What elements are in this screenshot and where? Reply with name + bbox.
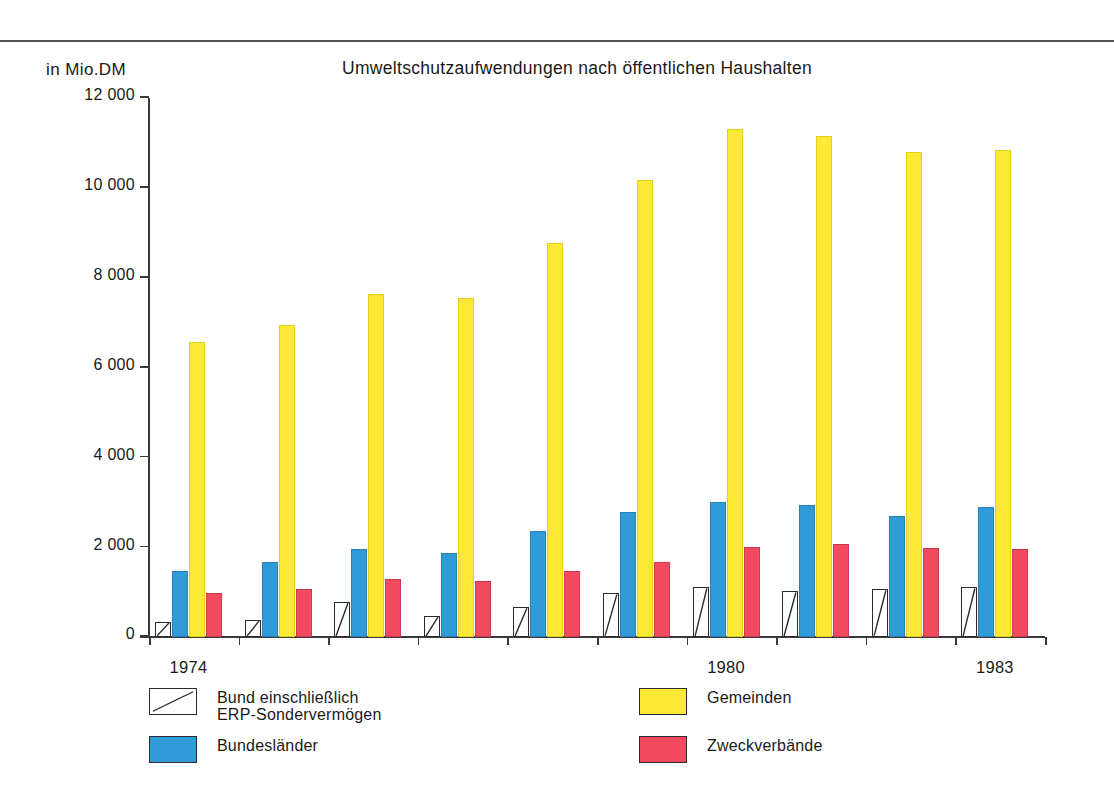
bar-zweck <box>385 579 401 637</box>
bar-bund <box>334 602 350 637</box>
diagonal-hatch-icon <box>962 588 976 636</box>
y-axis-tick: 12 000 <box>140 96 149 98</box>
y-axis-tick-label: 12 000 <box>84 86 135 104</box>
diagonal-hatch-icon <box>425 617 439 636</box>
bar-bund <box>693 587 709 637</box>
bar-gemeinden <box>727 129 743 637</box>
y-axis-tick: 8 000 <box>140 276 149 278</box>
bar-group <box>782 98 849 637</box>
diagonal-hatch-icon <box>694 588 708 636</box>
x-axis-label: 1980 <box>707 658 745 677</box>
bar-group <box>245 98 312 637</box>
bar-zweck <box>923 548 939 637</box>
bar-bund <box>603 593 619 637</box>
header-divider <box>0 40 1114 42</box>
legend-swatch-red <box>639 736 687 763</box>
y-axis-tick-label: 6 000 <box>93 356 135 374</box>
diagonal-hatch-icon <box>873 590 887 636</box>
bar-laender <box>262 562 278 637</box>
y-axis-tick: 0 <box>140 635 149 637</box>
bar-laender <box>172 571 188 637</box>
y-axis-tick-label: 8 000 <box>93 266 135 284</box>
bar-bund <box>961 587 977 637</box>
y-axis-tick: 6 000 <box>140 366 149 368</box>
legend-swatch-blue <box>149 736 197 763</box>
x-axis-tick <box>866 637 868 645</box>
bar-laender <box>889 516 905 637</box>
bar-gemeinden <box>906 152 922 637</box>
x-axis-tick <box>418 637 420 645</box>
bar-group <box>693 98 760 637</box>
x-axis-tick <box>507 637 509 645</box>
diagonal-hatch-icon <box>514 608 528 636</box>
chart-legend: Bund einschließlich ERP-SondervermögenBu… <box>149 688 1029 788</box>
chart-page: in Mio.DM Umweltschutzaufwendungen nach … <box>0 0 1114 810</box>
legend-item[interactable]: Bundesländer <box>149 736 318 763</box>
bar-gemeinden <box>816 136 832 637</box>
bar-zweck <box>564 571 580 637</box>
legend-item[interactable]: Bund einschließlich ERP-Sondervermögen <box>149 688 382 723</box>
bar-gemeinden <box>368 294 384 637</box>
legend-label: Bundesländer <box>217 736 318 754</box>
bar-bund <box>155 622 171 637</box>
diagonal-hatch-icon <box>156 623 170 636</box>
bar-zweck <box>833 544 849 637</box>
diagonal-hatch-icon <box>604 594 618 636</box>
diagonal-hatch-icon <box>783 592 797 636</box>
bar-group <box>872 98 939 637</box>
y-axis-tick-label: 0 <box>126 625 135 643</box>
bar-laender <box>620 512 636 637</box>
y-axis-tick: 2 000 <box>140 546 149 548</box>
bar-zweck <box>296 589 312 637</box>
bar-gemeinden <box>637 180 653 637</box>
x-axis-tick <box>149 637 151 645</box>
bar-laender <box>710 502 726 637</box>
legend-item[interactable]: Gemeinden <box>639 688 792 715</box>
x-axis-tick <box>239 637 241 645</box>
y-axis-tick-label: 2 000 <box>93 536 135 554</box>
x-axis-tick <box>955 637 957 645</box>
bar-group <box>961 98 1028 637</box>
bar-zweck <box>744 547 760 637</box>
legend-label: Gemeinden <box>707 688 792 706</box>
bar-zweck <box>206 593 222 637</box>
bar-group <box>155 98 222 637</box>
legend-label: Bund einschließlich ERP-Sondervermögen <box>217 688 382 723</box>
legend-swatch-yellow <box>639 688 687 715</box>
bar-group <box>603 98 670 637</box>
legend-swatch-white <box>149 688 197 715</box>
diagonal-hatch-icon <box>246 621 260 636</box>
diagonal-hatch-icon <box>335 603 349 636</box>
bar-bund <box>424 616 440 637</box>
bar-gemeinden <box>995 150 1011 637</box>
bar-bund <box>872 589 888 637</box>
bar-laender <box>351 549 367 637</box>
bar-group <box>334 98 401 637</box>
x-axis-label: 1983 <box>976 658 1014 677</box>
x-axis-tick <box>597 637 599 645</box>
x-axis-label: 1974 <box>170 658 208 677</box>
bar-zweck <box>1012 549 1028 637</box>
plot-area: 02 0004 0006 0008 00010 00012 000 197419… <box>149 98 1045 637</box>
bar-gemeinden <box>279 325 295 637</box>
x-axis-tick <box>687 637 689 645</box>
chart-title: Umweltschutzaufwendungen nach öffentlich… <box>0 58 1114 79</box>
bar-gemeinden <box>547 243 563 637</box>
legend-item[interactable]: Zweckverbände <box>639 736 823 763</box>
bar-bund <box>245 620 261 637</box>
x-axis-tick <box>1045 637 1047 645</box>
x-axis-tick <box>776 637 778 645</box>
bar-zweck <box>475 581 491 637</box>
legend-label: Zweckverbände <box>707 736 823 754</box>
y-axis-line <box>148 98 150 637</box>
bar-laender <box>978 507 994 637</box>
bar-gemeinden <box>458 298 474 637</box>
bar-zweck <box>654 562 670 637</box>
bar-laender <box>799 505 815 637</box>
y-axis-tick-label: 4 000 <box>93 446 135 464</box>
bar-group <box>513 98 580 637</box>
y-axis-tick: 10 000 <box>140 186 149 188</box>
bar-laender <box>530 531 546 637</box>
x-axis-tick <box>328 637 330 645</box>
bar-group <box>424 98 491 637</box>
